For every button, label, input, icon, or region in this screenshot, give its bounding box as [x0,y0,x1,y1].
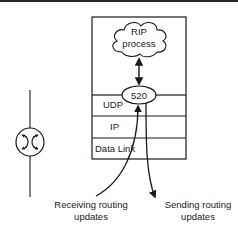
cloud-label-line2: process [119,38,159,49]
receiving-label-line2: updates [46,211,136,222]
sending-label-line2: updates [158,211,238,222]
layer-label-udp: UDP [103,99,123,110]
router-icon [16,128,44,156]
layer-label-ip: IP [110,121,119,132]
sending-label-line1: Sending routing [158,199,238,210]
sending-updates-arrow [146,103,155,197]
layer-label-datalink: Data Link [95,143,135,154]
cloud-label-line1: RIP [119,26,159,37]
port-label: 520 [124,90,154,101]
receiving-label-line1: Receiving routing [46,199,136,210]
